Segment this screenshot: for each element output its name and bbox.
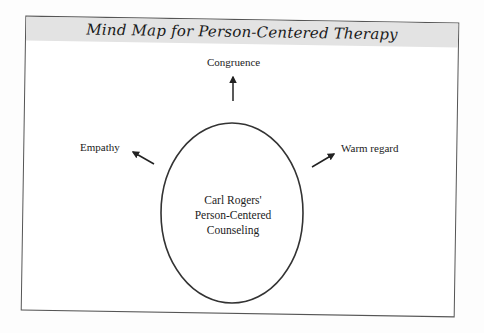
page: Mind Map for Person-Centered Therapy Con… — [0, 0, 484, 333]
branch-label-congruence: Congruence — [207, 56, 260, 68]
branch-label-empathy: Empathy — [80, 141, 120, 153]
central-node-line-1: Carl Rogers' — [173, 193, 293, 208]
arrow-up-right-icon — [312, 154, 334, 167]
mind-map-diagram — [0, 0, 484, 333]
central-node-label: Carl Rogers' Person-Centered Counseling — [173, 193, 293, 238]
central-node-line-2: Person-Centered — [173, 208, 293, 223]
branch-label-warm-regard: Warm regard — [341, 142, 398, 154]
arrow-up-left-icon — [133, 152, 154, 164]
central-node-line-3: Counseling — [173, 223, 293, 238]
